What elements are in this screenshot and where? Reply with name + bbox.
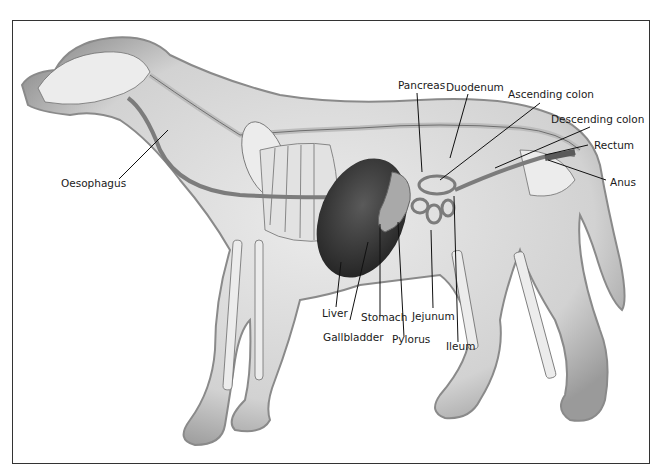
label-rectum: Rectum <box>594 139 634 151</box>
label-pylorus: Pylorus <box>392 333 430 345</box>
label-gallbladder: Gallbladder <box>323 331 384 343</box>
dog-anatomy-illustration <box>0 0 657 474</box>
label-liver: Liver <box>322 307 348 319</box>
label-ascending-colon: Ascending colon <box>508 88 594 100</box>
label-oesophagus: Oesophagus <box>61 177 126 189</box>
label-descending-colon: Descending colon <box>551 113 644 125</box>
label-duodenum: Duodenum <box>446 81 504 93</box>
label-stomach: Stomach <box>361 311 407 323</box>
label-anus: Anus <box>610 176 636 188</box>
label-ileum: Ileum <box>446 340 475 352</box>
label-jejunum: Jejunum <box>412 310 455 322</box>
label-pancreas: Pancreas <box>398 79 445 91</box>
